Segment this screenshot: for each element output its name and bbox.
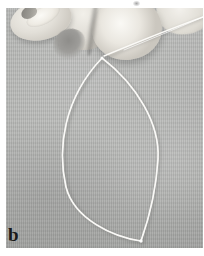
- photograph: b: [6, 8, 203, 248]
- figure-panel: b: [0, 0, 204, 256]
- wire-loop: [6, 8, 203, 248]
- panel-label: b: [8, 225, 19, 244]
- crop-mark-icon: [131, 0, 142, 7]
